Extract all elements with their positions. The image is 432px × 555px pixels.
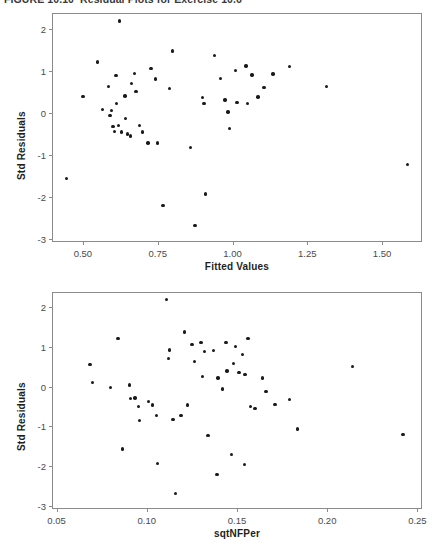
data-point — [128, 383, 131, 386]
data-point — [156, 462, 159, 465]
data-point — [401, 433, 404, 436]
data-point — [241, 353, 244, 356]
x-tick-mark — [158, 241, 159, 245]
data-point — [161, 204, 164, 207]
data-point — [288, 65, 291, 68]
data-point — [261, 376, 264, 379]
data-point — [262, 86, 265, 89]
data-point — [109, 386, 112, 389]
y-tick-label: 1 — [41, 65, 46, 76]
y-tick-mark — [49, 113, 53, 114]
x-tick-mark — [233, 241, 234, 245]
data-point — [123, 94, 126, 97]
x-tick-label: 0.05 — [47, 515, 66, 526]
data-point — [296, 427, 299, 430]
y-tick-mark — [49, 155, 53, 156]
data-point — [244, 64, 247, 67]
data-point — [147, 400, 150, 403]
residual-plot-sqtnfper: 210-1-2-3 0.050.100.150.200.25 Std Resid… — [0, 279, 432, 555]
data-point — [133, 72, 136, 75]
data-point — [155, 414, 158, 417]
y-tick-mark — [49, 29, 53, 30]
data-point — [190, 343, 193, 346]
data-point — [225, 369, 228, 372]
plot-area-2 — [53, 293, 421, 508]
data-point — [203, 350, 206, 353]
plot-frame-1: 210-1-2-3 0.500.751.001.251.50 — [52, 13, 422, 242]
y-tick-label: -1 — [38, 421, 46, 432]
data-point — [133, 396, 136, 399]
data-point — [201, 375, 204, 378]
data-point — [120, 130, 123, 133]
x-tick-label: 1.50 — [373, 248, 392, 259]
y-tick-label: 1 — [41, 341, 46, 352]
data-point — [243, 373, 246, 376]
data-point — [134, 90, 137, 93]
x-tick-label: 0.75 — [148, 248, 167, 259]
y-tick-label: 0 — [41, 381, 46, 392]
data-point — [189, 146, 192, 149]
x-tick-label: 0.50 — [74, 248, 93, 259]
data-point — [215, 473, 218, 476]
data-point — [151, 403, 154, 406]
data-point — [116, 337, 119, 340]
data-point — [273, 403, 276, 406]
data-point — [223, 98, 226, 101]
data-point — [88, 363, 91, 366]
y-tick-label: -3 — [38, 501, 46, 512]
data-point — [206, 434, 209, 437]
data-point — [111, 125, 114, 128]
data-point — [165, 298, 168, 301]
data-point — [201, 96, 204, 99]
x-tick-mark — [57, 508, 58, 512]
x-tick-label: 0.15 — [228, 515, 247, 526]
data-point — [193, 224, 196, 227]
y-tick-mark — [49, 197, 53, 198]
data-point — [171, 49, 174, 52]
x-axis-label-1: Fitted Values — [0, 261, 432, 272]
residual-plot-fitted-values: 210-1-2-3 0.500.751.001.251.50 Std Resid… — [0, 0, 432, 278]
y-axis-label-1: Std Residuals — [16, 111, 27, 180]
x-axis-label-2: sqtNFPer — [0, 528, 432, 539]
data-point — [250, 73, 253, 76]
data-point — [213, 54, 216, 57]
data-point — [168, 87, 171, 90]
y-tick-label: 0 — [41, 107, 46, 118]
data-point — [115, 102, 118, 105]
y-axis-label-2: Std Residuals — [16, 382, 27, 451]
data-point — [110, 109, 113, 112]
data-point — [154, 77, 157, 80]
data-point — [168, 348, 171, 351]
x-tick-label: 0.20 — [318, 515, 337, 526]
data-point — [226, 110, 229, 113]
data-point — [186, 403, 189, 406]
data-point — [235, 101, 238, 104]
x-tick-mark — [327, 508, 328, 512]
data-point — [288, 398, 291, 401]
x-tick-mark — [417, 508, 418, 512]
x-tick-mark — [307, 241, 308, 245]
data-point — [202, 102, 205, 105]
y-tick-mark — [49, 426, 53, 427]
y-tick-label: -1 — [38, 149, 46, 160]
data-point — [124, 117, 127, 120]
y-tick-mark — [49, 466, 53, 467]
data-point — [325, 85, 328, 88]
data-point — [224, 341, 227, 344]
data-point — [246, 102, 249, 105]
y-tick-label: -3 — [38, 233, 46, 244]
data-point — [221, 387, 224, 390]
data-point — [212, 349, 215, 352]
y-tick-mark — [49, 307, 53, 308]
data-point — [96, 60, 99, 63]
data-point — [246, 337, 249, 340]
x-tick-label: 1.00 — [223, 248, 242, 259]
data-point — [234, 69, 237, 72]
y-tick-mark — [49, 506, 53, 507]
plot-area-1 — [53, 14, 421, 241]
data-point — [146, 141, 149, 144]
data-point — [174, 492, 177, 495]
data-point — [121, 447, 124, 450]
y-tick-label: -2 — [38, 461, 46, 472]
data-point — [234, 345, 237, 348]
